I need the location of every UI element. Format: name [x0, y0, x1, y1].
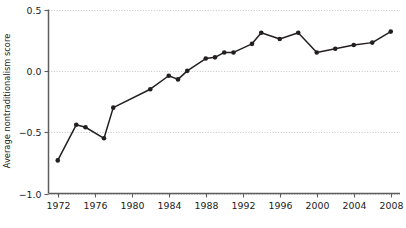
data-point: [74, 123, 79, 128]
data-point: [148, 87, 153, 92]
data-point: [222, 50, 227, 55]
data-point: [250, 42, 255, 47]
y-tick-label-3: −1.0: [19, 189, 42, 200]
x-tick-label-1: 1976: [84, 200, 108, 211]
chart-container: 0.50.0−0.5−1.0 1972197619801984198819921…: [0, 0, 406, 228]
x-tick-label-0: 1972: [47, 200, 71, 211]
data-point: [259, 31, 264, 36]
x-tick-label-2: 1980: [121, 200, 145, 211]
y-tick-label-1: 0.0: [27, 66, 42, 77]
data-point: [185, 69, 190, 74]
x-tick-label-5: 1992: [232, 200, 256, 211]
line-chart: 0.50.0−0.5−1.0 1972197619801984198819921…: [0, 0, 406, 228]
y-axis-label: Average nontraditionalism score: [2, 34, 12, 169]
data-point: [351, 43, 356, 48]
x-tick-label-8: 2004: [343, 200, 367, 211]
x-tick-label-6: 1996: [269, 200, 293, 211]
y-tick-label-0: 0.5: [27, 5, 42, 16]
data-point: [55, 158, 60, 163]
data-point: [388, 29, 393, 34]
data-point: [111, 105, 116, 110]
data-point: [333, 46, 338, 51]
x-tick-label-4: 1988: [195, 200, 219, 211]
data-point: [231, 50, 236, 55]
data-point: [277, 37, 282, 42]
data-point: [370, 40, 375, 45]
data-point: [213, 55, 218, 60]
x-tick-label-9: 2008: [380, 200, 404, 211]
y-tick-label-2: −0.5: [19, 127, 42, 138]
data-point: [166, 73, 171, 78]
data-point: [203, 56, 208, 61]
data-point: [296, 31, 301, 36]
x-tick-label-7: 2000: [306, 200, 330, 211]
x-tick-label-3: 1984: [158, 200, 182, 211]
data-point: [176, 77, 181, 82]
data-point: [102, 136, 107, 141]
data-point: [314, 50, 319, 55]
data-point: [83, 125, 88, 130]
